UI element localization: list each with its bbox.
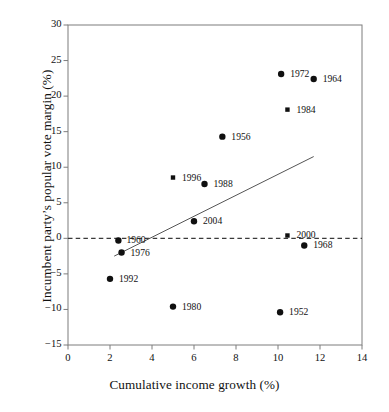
data-point-1972 (278, 71, 284, 77)
y-tick-label-25: 25 (28, 54, 62, 65)
x-tick-label-4: 4 (137, 352, 167, 363)
data-point-1980 (170, 303, 176, 309)
y-tick-label--15: −15 (28, 338, 62, 349)
data-point-2000 (285, 233, 289, 237)
data-point-label-1976: 1976 (131, 247, 150, 258)
data-point-1984 (285, 107, 289, 111)
data-point-label-1984: 1984 (296, 104, 315, 115)
y-tick-label-30: 30 (28, 18, 62, 29)
data-point-label-1960: 1960 (126, 234, 145, 245)
scatter-chart-figure: Cumulative income growth (%) Incumbent p… (0, 0, 389, 412)
data-point-2004 (191, 218, 197, 224)
data-point-label-1988: 1988 (214, 178, 233, 189)
data-point-label-1980: 1980 (182, 301, 201, 312)
data-point-label-1968: 1968 (313, 239, 332, 250)
y-tick-label-10: 10 (28, 160, 62, 171)
data-point-label-1956: 1956 (231, 131, 250, 142)
data-point-1996 (171, 175, 175, 179)
y-tick-label-20: 20 (28, 89, 62, 100)
data-point-1964 (311, 76, 317, 82)
y-tick-label-5: 5 (28, 196, 62, 207)
y-tick-label-0: 0 (28, 231, 62, 242)
data-point-1988 (201, 181, 207, 187)
x-tick-label-14: 14 (347, 352, 377, 363)
data-point-label-1964: 1964 (323, 73, 342, 84)
x-tick-label-12: 12 (305, 352, 335, 363)
data-point-label-1972: 1972 (290, 68, 309, 79)
data-point-1968 (301, 242, 307, 248)
y-tick-label--5: −5 (28, 267, 62, 278)
data-point-label-1996: 1996 (182, 172, 201, 183)
data-points (107, 71, 317, 316)
data-point-label-1952: 1952 (289, 306, 308, 317)
x-tick-label-0: 0 (53, 352, 83, 363)
data-point-label-2004: 2004 (203, 215, 222, 226)
data-point-1992 (107, 276, 113, 282)
data-point-label-1992: 1992 (119, 273, 138, 284)
x-tick-label-8: 8 (221, 352, 251, 363)
data-point-label-2000: 2000 (296, 229, 315, 240)
y-tick-label-15: 15 (28, 125, 62, 136)
x-axis-title: Cumulative income growth (%) (0, 377, 389, 393)
x-tick-label-10: 10 (263, 352, 293, 363)
data-point-1956 (219, 133, 225, 139)
data-point-1952 (277, 309, 283, 315)
data-point-1976 (118, 249, 124, 255)
x-tick-label-2: 2 (95, 352, 125, 363)
y-tick-label--10: −10 (28, 302, 62, 313)
data-point-1960 (115, 237, 121, 243)
x-tick-label-6: 6 (179, 352, 209, 363)
